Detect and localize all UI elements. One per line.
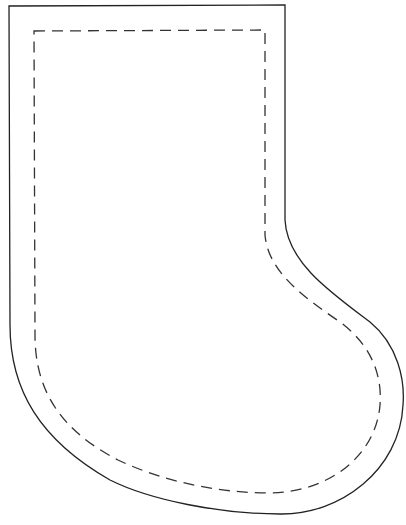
stocking-outline-cut-line [9,5,403,514]
stocking-pattern [0,0,406,525]
stocking-seam-stitch-line [34,30,380,493]
